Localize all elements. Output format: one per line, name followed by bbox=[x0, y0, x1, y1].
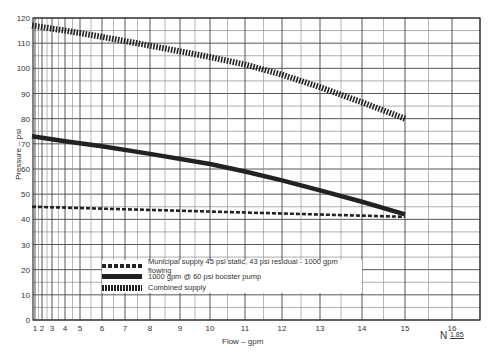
y-tick-label: 90 bbox=[21, 90, 30, 99]
solid-line-swatch-icon bbox=[102, 274, 142, 279]
series-line bbox=[32, 136, 405, 214]
x-tick-label: 4 bbox=[63, 324, 68, 333]
x-tick-label: 15 bbox=[401, 324, 410, 333]
hatched-line-swatch-icon bbox=[102, 285, 142, 291]
y-tick-label: 30 bbox=[21, 241, 30, 250]
x-tick-label: 5 bbox=[78, 324, 83, 333]
y-tick-label: 100 bbox=[17, 64, 31, 73]
y-axis-label: Pressure – psi bbox=[14, 125, 23, 185]
x-tick-label: 6 bbox=[100, 324, 105, 333]
x-tick-label: 3 bbox=[50, 324, 55, 333]
legend: Municipal supply 45 psi static, 43 psi r… bbox=[102, 260, 362, 293]
y-tick-label: 70 bbox=[21, 140, 30, 149]
x-axis-label: Flow – gpm bbox=[222, 337, 263, 346]
x-tick-label: 14 bbox=[358, 324, 367, 333]
x-tick-label: 1 bbox=[33, 324, 38, 333]
series-line bbox=[32, 207, 405, 217]
x-tick-label: 7 bbox=[123, 324, 128, 333]
y-tick-label: 0 bbox=[26, 316, 31, 325]
legend-item-combined: Combined supply bbox=[102, 282, 362, 293]
n-exponent-mark: N 1.85 bbox=[440, 330, 464, 341]
dashed-line-swatch-icon bbox=[102, 264, 142, 268]
y-tick-label: 110 bbox=[17, 39, 30, 48]
x-tick-label: 12 bbox=[278, 324, 287, 333]
x-tick-label: 9 bbox=[178, 324, 183, 333]
y-tick-label: 60 bbox=[21, 165, 30, 174]
x-tick-label: 8 bbox=[148, 324, 153, 333]
x-tick-label: 2 bbox=[40, 324, 45, 333]
series-line bbox=[32, 26, 405, 119]
y-tick-label: 50 bbox=[21, 190, 30, 199]
x-tick-label: 10 bbox=[206, 324, 215, 333]
x-tick-label: 11 bbox=[241, 324, 250, 333]
legend-item-municipal: Municipal supply 45 psi static, 43 psi r… bbox=[102, 260, 362, 271]
y-tick-label: 40 bbox=[21, 215, 30, 224]
chart-canvas: 0102030405060708090100110120123456789101… bbox=[0, 0, 496, 357]
y-tick-label: 20 bbox=[21, 266, 30, 275]
y-tick-label: 80 bbox=[21, 115, 30, 124]
y-tick-label: 120 bbox=[17, 14, 31, 23]
y-tick-label: 10 bbox=[21, 291, 30, 300]
x-tick-label: 13 bbox=[316, 324, 325, 333]
